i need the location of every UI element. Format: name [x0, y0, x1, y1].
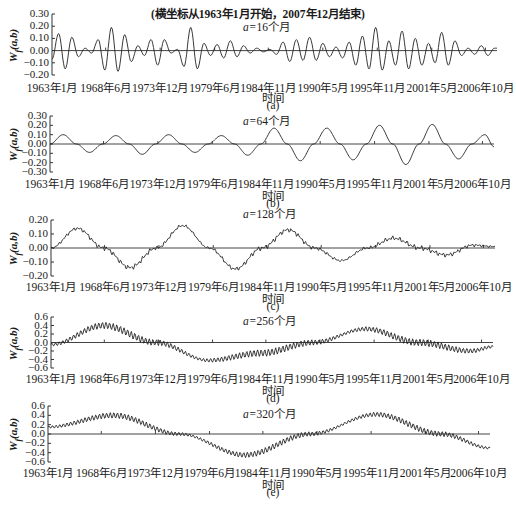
x-tick-label: 1973年12月	[130, 175, 187, 191]
x-tick-label: 1968年6月	[79, 370, 130, 386]
x-tick-label: 1979年6月	[187, 175, 238, 191]
x-tick-label: 1968年6月	[80, 79, 131, 95]
x-tick-label: 1995年11月	[343, 464, 399, 480]
panel-label: (c)	[253, 300, 293, 312]
x-tick-label: 2001年5月	[403, 370, 454, 386]
x-tick-label: 1990年5月	[296, 278, 347, 294]
x-tick-label: 1973年12月	[131, 278, 188, 294]
x-tick-label: 1963年1月	[23, 464, 74, 480]
x-tick-label: 1973年12月	[130, 370, 187, 386]
panel-label: (d)	[253, 392, 293, 404]
x-tick-label: 2001年5月	[404, 175, 455, 191]
x-tick-label: 1979年6月	[188, 278, 239, 294]
x-tick-label: 2006年10月	[457, 79, 514, 95]
x-tick-label: 1995年11月	[346, 370, 402, 386]
x-tick-label: 1995年11月	[348, 278, 404, 294]
series-line-e	[48, 412, 490, 457]
y-axis-title: Wf(a,b)	[7, 18, 22, 72]
y-tick-label: 0.30	[5, 8, 49, 19]
x-tick-label: 1973年12月	[132, 79, 189, 95]
panel-label: (b)	[253, 197, 293, 209]
plots-canvas	[0, 0, 516, 513]
panel-label: (e)	[253, 486, 293, 498]
y-axis-title: Wf(a,b)	[7, 222, 22, 276]
y-axis-title: Wf(a,b)	[7, 316, 22, 370]
x-tick-label: 2006年10月	[455, 278, 512, 294]
x-tick-label: 1995年11月	[347, 175, 403, 191]
x-tick-label: 1990年5月	[297, 79, 348, 95]
x-tick-label: 1979年6月	[187, 370, 238, 386]
x-tick-label: 1968年6月	[76, 464, 127, 480]
x-tick-label: 1963年1月	[27, 79, 78, 95]
x-tick-label: 2006年10月	[454, 175, 511, 191]
series-line-a	[52, 27, 497, 71]
x-tick-label: 2001年5月	[405, 278, 456, 294]
x-tick-label: 2006年10月	[450, 464, 507, 480]
x-tick-label: 1963年1月	[26, 370, 77, 386]
x-tick-label: 1995年11月	[349, 79, 405, 95]
x-tick-label: 2001年5月	[406, 79, 457, 95]
x-tick-label: 2001年5月	[400, 464, 451, 480]
x-tick-label: 1979年6月	[184, 464, 235, 480]
x-tick-label: 1979年6月	[189, 79, 240, 95]
series-line-c	[51, 225, 495, 270]
x-tick-label: 1973年12月	[127, 464, 184, 480]
x-tick-label: 1968年6月	[79, 278, 130, 294]
x-tick-label: 1963年1月	[26, 278, 77, 294]
x-tick-label: 2006年10月	[453, 370, 510, 386]
y-axis-title: Wf(a,b)	[7, 118, 22, 172]
x-tick-label: 1968年6月	[78, 175, 129, 191]
x-tick-label: 1963年1月	[25, 175, 76, 191]
y-axis-title: Wf(a,b)	[7, 408, 22, 462]
panel-label: (a)	[253, 99, 293, 111]
